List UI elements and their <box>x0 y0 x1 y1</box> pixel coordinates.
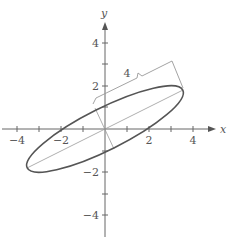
y-tick-label: 2 <box>92 80 99 93</box>
ellipse-diagram: 4 x y −4 −2 2 4 4 2 −2 −4 <box>0 0 231 242</box>
x-axis-label: x <box>220 123 227 136</box>
x-axis-arrow-icon <box>208 126 216 132</box>
length-bracket <box>93 61 183 104</box>
y-axis-label: y <box>100 7 108 20</box>
y-tick-label: −2 <box>83 166 99 179</box>
x-tick-label: 2 <box>146 134 153 147</box>
y-tick-label: −4 <box>83 209 99 222</box>
y-axis-arrow-icon <box>102 22 108 30</box>
x-tick-label: −4 <box>9 134 25 147</box>
x-tick-label: −2 <box>53 134 69 147</box>
x-tick-label: 4 <box>190 134 197 147</box>
y-tick-label: 4 <box>92 37 99 50</box>
bracket-label: 4 <box>124 67 131 80</box>
